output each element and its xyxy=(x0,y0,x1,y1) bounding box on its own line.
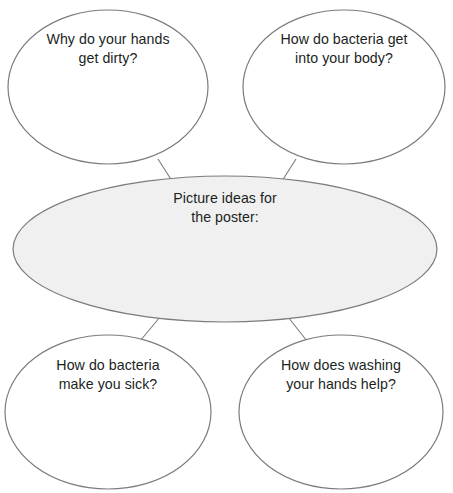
connector-line-top-right xyxy=(282,159,296,181)
connector-line-top-left xyxy=(158,159,172,181)
branch-ellipse-bottom-left[interactable] xyxy=(5,335,211,489)
branch-ellipse-top-left[interactable] xyxy=(8,10,208,164)
mind-map-diagram xyxy=(0,0,453,493)
connector-line-bottom-left xyxy=(140,317,160,341)
worksheet-canvas: sick. Picture ideas for the poster: Why … xyxy=(0,0,453,493)
branch-ellipse-top-right[interactable] xyxy=(243,10,445,164)
branch-ellipse-bottom-right[interactable] xyxy=(239,335,443,489)
connector-line-bottom-right xyxy=(288,317,307,341)
center-node-ellipse[interactable] xyxy=(13,176,437,322)
